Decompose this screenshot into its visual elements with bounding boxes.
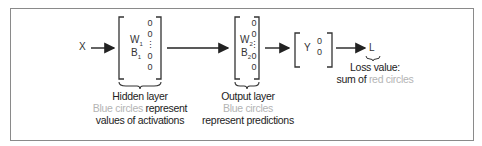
hidden-layer-caption: Hidden layer Blue circles represent valu… [88, 90, 192, 126]
loss-l-label: L [369, 42, 375, 53]
hidden-bias-sub: 1 [138, 54, 141, 60]
hidden-bias-letter: B [131, 47, 138, 58]
loss-caption: Loss value: sum of red circles [332, 61, 418, 85]
output-bias-letter: B [241, 47, 248, 58]
hidden-layer-brace [119, 82, 161, 89]
target-value: 0 [317, 36, 322, 47]
hidden-neuron: 0 [146, 18, 154, 29]
output-neuron: 0 [250, 29, 258, 40]
hidden-neuron-column: 0 0 ⋮ 0 0 [146, 18, 154, 73]
hidden-layer-desc-line1: Blue circles represent [88, 102, 192, 114]
loss-desc: sum of red circles [332, 73, 418, 85]
hidden-layer-desc-line2: values of activations [88, 114, 192, 126]
hidden-neuron: 0 [146, 51, 154, 62]
loss-desc-colored: red circles [369, 73, 414, 85]
output-neuron: 0 [250, 62, 258, 73]
hidden-ellipsis: ⋮ [146, 40, 154, 51]
output-layer-desc-line2: represent predictions [196, 114, 300, 126]
hidden-neuron: 0 [146, 29, 154, 40]
output-neuron: 0 [250, 18, 258, 29]
hidden-bias-label: B1 [131, 47, 141, 60]
loss-title: Loss value: [332, 61, 418, 73]
loss-desc-prefix: sum of [337, 73, 369, 85]
input-x-label: X [79, 41, 86, 52]
target-column: 0 0 [317, 36, 322, 58]
target-y-label: Y [304, 42, 311, 53]
hidden-neuron: 0 [146, 62, 154, 73]
target-value: 0 [317, 47, 322, 58]
hidden-weight-label: W1 [130, 34, 143, 47]
output-neuron-column: 0 0 ⋮ 0 0 [250, 18, 258, 73]
hidden-layer-desc-rest: represent [143, 102, 187, 114]
output-layer-title: Output layer [196, 90, 300, 102]
output-layer-desc-colored: Blue circles [196, 102, 300, 114]
output-layer-brace [235, 82, 259, 89]
output-neuron: 0 [250, 51, 258, 62]
hidden-layer-desc-colored: Blue circles [93, 102, 143, 114]
output-ellipsis: ⋮ [250, 40, 258, 51]
output-layer-caption: Output layer Blue circles represent pred… [196, 90, 300, 126]
hidden-layer-title: Hidden layer [88, 90, 192, 102]
target-bracket [295, 33, 332, 67]
